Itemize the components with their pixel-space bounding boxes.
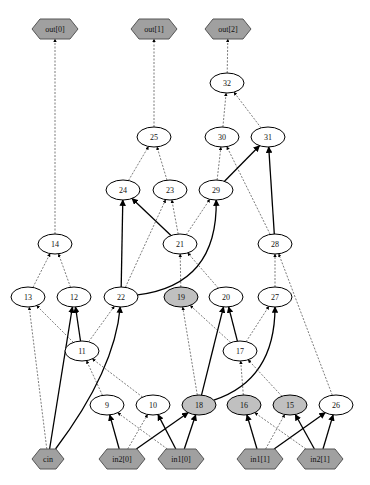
edge-12-to-14	[59, 254, 71, 287]
edge-18-to-19	[183, 307, 198, 395]
node-in11[interactable]: in1[1]	[237, 449, 283, 469]
node-label: out[1]	[144, 25, 164, 34]
node-out2[interactable]: out[2]	[205, 19, 251, 39]
dataflow-graph: out[0]out[1]out[2]3225303124232914212813…	[0, 0, 370, 485]
node-label: out[0]	[45, 25, 65, 34]
node-label: in2[1]	[310, 455, 330, 464]
node-11[interactable]: 11	[65, 341, 99, 361]
node-in10[interactable]: in1[0]	[158, 449, 204, 469]
node-label: 9	[105, 401, 109, 410]
node-label: 13	[24, 293, 32, 302]
node-label: 29	[212, 186, 220, 195]
edge-in10-to-18	[184, 415, 195, 449]
node-10[interactable]: 10	[136, 395, 170, 415]
node-17[interactable]: 17	[223, 341, 257, 361]
node-label: 24	[119, 186, 127, 195]
node-label: 11	[78, 347, 86, 356]
edge-in20-to-9	[110, 415, 120, 449]
node-15[interactable]: 15	[273, 395, 307, 415]
node-24[interactable]: 24	[106, 180, 140, 200]
node-in20[interactable]: in2[0]	[99, 449, 145, 469]
node-label: in1[0]	[171, 455, 191, 464]
node-28[interactable]: 28	[258, 234, 292, 254]
node-out0[interactable]: out[0]	[32, 19, 78, 39]
node-label: 20	[222, 293, 230, 302]
node-label: 26	[332, 401, 340, 410]
node-cin[interactable]: cin	[32, 449, 64, 469]
node-25[interactable]: 25	[137, 127, 171, 147]
edge-29-to-31	[225, 146, 260, 182]
edge-cin-to-22	[56, 307, 121, 449]
node-9[interactable]: 9	[90, 395, 124, 415]
edge-17-to-19	[190, 305, 231, 342]
edge-21-to-23	[172, 200, 178, 234]
edge-cin-to-13	[29, 307, 47, 449]
node-30[interactable]: 30	[205, 127, 239, 147]
edge-19-to-21	[180, 254, 181, 287]
node-13[interactable]: 13	[11, 287, 45, 307]
node-label: 30	[218, 133, 226, 142]
node-29[interactable]: 29	[199, 180, 233, 200]
edge-22-to-23	[125, 200, 165, 288]
node-label: 21	[176, 240, 184, 249]
edge-11-to-12	[76, 307, 81, 341]
edge-15-to-17	[248, 360, 282, 396]
node-label: out[2]	[218, 25, 238, 34]
node-27[interactable]: 27	[258, 287, 292, 307]
node-label: 19	[177, 293, 185, 302]
node-label: 25	[150, 133, 158, 142]
edge-26-to-28	[279, 254, 333, 395]
node-22[interactable]: 22	[104, 287, 138, 307]
node-31[interactable]: 31	[251, 127, 285, 147]
node-20[interactable]: 20	[209, 287, 243, 307]
node-19[interactable]: 19	[164, 287, 198, 307]
edge-21-to-29	[186, 199, 210, 234]
node-label: in2[0]	[112, 455, 132, 464]
node-26[interactable]: 26	[319, 395, 353, 415]
node-18[interactable]: 18	[182, 395, 216, 415]
node-21[interactable]: 21	[163, 234, 197, 254]
node-32[interactable]: 32	[210, 73, 244, 93]
edge-30-to-32	[223, 93, 226, 127]
edge-18-to-20	[202, 307, 224, 395]
node-label: 31	[264, 133, 272, 142]
node-label: 22	[117, 293, 125, 302]
node-label: 32	[223, 79, 231, 88]
node-23[interactable]: 23	[153, 180, 187, 200]
node-label: 14	[51, 240, 59, 249]
node-12[interactable]: 12	[57, 287, 91, 307]
node-label: 27	[271, 293, 279, 302]
node-label: 28	[271, 240, 279, 249]
edge-23-to-25	[157, 147, 167, 180]
edge-16-to-17	[241, 361, 244, 395]
node-label: cin	[43, 455, 53, 464]
edge-17-to-27	[246, 306, 269, 341]
node-label: 16	[240, 401, 248, 410]
edge-in11-to-26	[274, 413, 325, 449]
edge-29-to-30	[217, 147, 221, 180]
node-label: 18	[195, 401, 203, 410]
edge-in11-to-16	[247, 415, 257, 449]
node-14[interactable]: 14	[38, 234, 72, 254]
edge-cin-to-12	[50, 307, 73, 449]
node-label: 23	[166, 186, 174, 195]
edge-32-to-out2	[227, 39, 228, 73]
node-out1[interactable]: out[1]	[131, 19, 177, 39]
edge-in21-to-16	[255, 413, 306, 449]
edge-28-to-31	[269, 147, 275, 234]
edge-24-to-25	[129, 147, 149, 181]
node-label: 10	[149, 401, 157, 410]
edge-31-to-32	[234, 92, 261, 128]
edge-in21-to-26	[323, 415, 333, 449]
node-in21[interactable]: in2[1]	[297, 449, 343, 469]
node-16[interactable]: 16	[227, 395, 261, 415]
node-label: 12	[70, 293, 78, 302]
nodes-layer: out[0]out[1]out[2]3225303124232914212813…	[11, 19, 353, 469]
node-label: 15	[286, 401, 294, 410]
edge-22-to-24	[121, 200, 123, 287]
node-label: 17	[236, 347, 244, 356]
edge-17-to-20	[229, 307, 238, 341]
node-label: in1[1]	[250, 455, 270, 464]
edge-13-to-14	[33, 254, 50, 288]
edge-in20-to-18	[136, 413, 188, 449]
